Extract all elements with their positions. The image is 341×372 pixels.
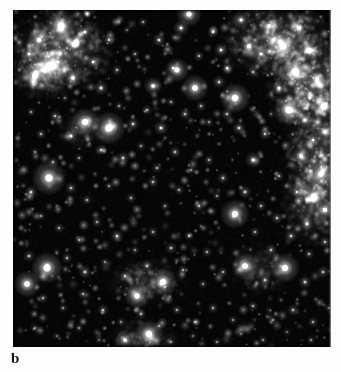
figure-panel: b bbox=[0, 0, 341, 372]
micrograph-canvas bbox=[13, 10, 331, 347]
micrograph-image bbox=[13, 10, 331, 347]
panel-label: b bbox=[11, 350, 19, 366]
